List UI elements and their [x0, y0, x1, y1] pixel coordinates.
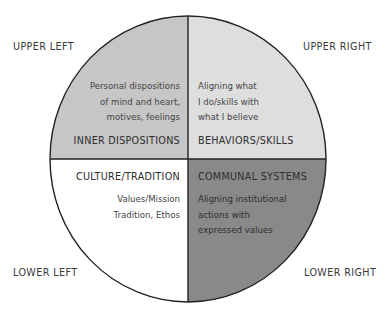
lower-right-title: COMMUNAL SYSTEMS [198, 171, 307, 183]
upper-left-description: Personal dispositions of mind and heart,… [90, 79, 180, 126]
description-line: Aligning what [198, 79, 259, 95]
lower-right-description: Aligning institutional actions with expr… [198, 192, 287, 239]
description-line: I do/skills with [198, 95, 259, 111]
upper-left-title: INNER DISPOSITIONS [74, 135, 180, 147]
description-line: Values/Mission [113, 192, 180, 208]
quadrant-diagram: UPPER LEFT UPPER RIGHT LOWER LEFT LOWER … [0, 0, 389, 309]
description-line: of mind and heart, [90, 95, 180, 111]
upper-right-title: BEHAVIORS/SKILLS [198, 135, 294, 147]
lower-left-description: Values/Mission Tradition, Ethos [113, 192, 180, 223]
label-lower-right: LOWER RIGHT [304, 267, 376, 279]
description-line: Aligning institutional [198, 192, 287, 208]
description-line: what I believe [198, 110, 259, 126]
description-line: motives, feelings [90, 110, 180, 126]
description-line: Personal dispositions [90, 79, 180, 95]
description-line: actions with [198, 208, 287, 224]
label-upper-left: UPPER LEFT [13, 41, 74, 53]
lower-left-title: CULTURE/TRADITION [76, 171, 180, 183]
label-upper-right: UPPER RIGHT [303, 41, 372, 53]
description-line: expressed values [198, 223, 287, 239]
upper-right-description: Aligning what I do/skills with what I be… [198, 79, 259, 126]
description-line: Tradition, Ethos [113, 208, 180, 224]
label-lower-left: LOWER LEFT [13, 267, 77, 279]
